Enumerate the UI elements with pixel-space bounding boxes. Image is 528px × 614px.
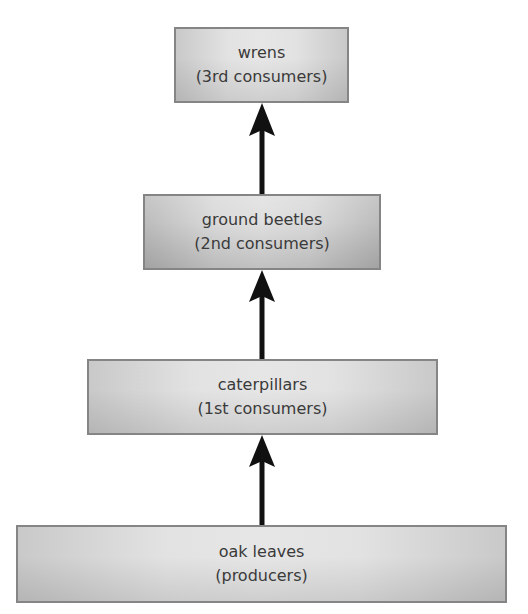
box-wrens: wrens (3rd consumers) [174,27,349,103]
box-ground-beetles: ground beetles (2nd consumers) [143,194,381,270]
level-role: (producers) [215,564,308,588]
level-name: wrens [238,41,286,65]
level-role: (3rd consumers) [196,65,328,89]
food-chain-diagram: wrens (3rd consumers) ground beetles (2n… [0,0,528,614]
level-name: oak leaves [219,540,305,564]
arrow-up-icon [249,435,275,525]
level-name: ground beetles [202,208,322,232]
level-name: caterpillars [218,373,308,397]
level-role: (1st consumers) [198,397,328,421]
arrow-up-icon [249,270,275,359]
arrow-up-icon [249,103,275,194]
level-role: (2nd consumers) [194,232,330,256]
box-caterpillars: caterpillars (1st consumers) [87,359,438,435]
box-oak-leaves: oak leaves (producers) [16,525,507,603]
